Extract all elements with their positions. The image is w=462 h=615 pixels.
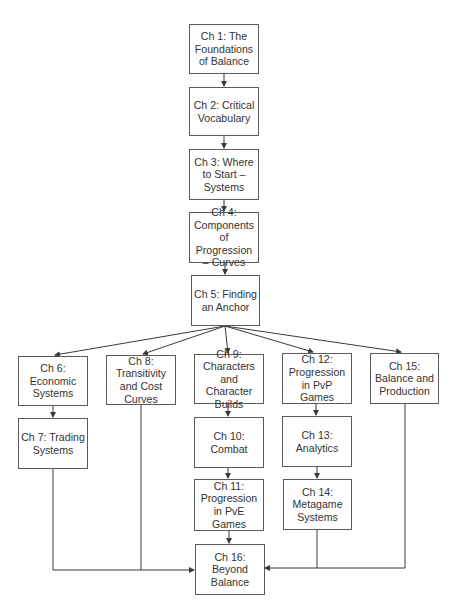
node-ch4: Ch 4: Components of Progression – Curves: [189, 212, 259, 263]
node-ch8: Ch 8: Transitivity and Cost Curves: [106, 355, 176, 405]
node-ch5: Ch 5: Finding an Anchor: [191, 275, 260, 326]
node-ch7: Ch 7: Trading Systems: [18, 418, 88, 469]
node-ch13: Ch 13: Analytics: [282, 416, 352, 467]
node-ch2: Ch 2: Critical Vocabulary: [189, 87, 259, 136]
node-ch11: Ch 11: Progression in PvE Games: [194, 479, 264, 531]
node-ch1: Ch 1: The Foundations of Balance: [189, 24, 259, 74]
node-ch9: Ch 9: Characters and Character Builds: [194, 354, 264, 404]
node-ch10: Ch 10: Combat: [194, 417, 264, 468]
node-ch6: Ch 6: Economic Systems: [18, 356, 88, 406]
node-ch3: Ch 3: Where to Start – Systems: [189, 149, 259, 200]
node-ch15: Ch 15: Balance and Production: [370, 353, 439, 404]
node-ch14: Ch 14: Metagame Systems: [283, 479, 352, 530]
chapter-flowchart: Ch 1: The Foundations of Balance Ch 2: C…: [0, 0, 462, 615]
node-ch12: Ch 12: Progression in PvP Games: [282, 353, 352, 404]
edge-ch7-ch16: [53, 468, 194, 570]
node-ch16: Ch 16: Beyond Balance: [195, 544, 265, 595]
